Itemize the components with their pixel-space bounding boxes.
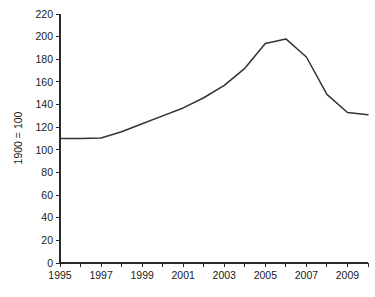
y-tick-label: 100 xyxy=(35,144,53,156)
y-tick-label: 160 xyxy=(35,76,53,88)
x-tick-group: 19951997199920012003200520072009 xyxy=(48,263,368,281)
y-tick-label: 80 xyxy=(41,166,53,178)
y-tick-label: 200 xyxy=(35,30,53,42)
y-tick-group: 020406080100120140160180200220 xyxy=(35,8,60,269)
x-tick-label: 2003 xyxy=(213,269,237,281)
y-tick-label: 180 xyxy=(35,53,53,65)
x-tick-label: 2005 xyxy=(254,269,278,281)
x-tick-label: 1995 xyxy=(48,269,72,281)
y-tick-label: 40 xyxy=(41,211,53,223)
y-tick-label: 120 xyxy=(35,121,53,133)
x-tick-label: 2009 xyxy=(336,269,360,281)
y-tick-label: 140 xyxy=(35,98,53,110)
x-tick-label: 2001 xyxy=(172,269,196,281)
x-tick-label: 1999 xyxy=(130,269,154,281)
chart-container: 020406080100120140160180200220 199519971… xyxy=(0,0,375,297)
series-line xyxy=(60,39,368,139)
y-tick-label: 220 xyxy=(35,8,53,20)
line-chart: 020406080100120140160180200220 199519971… xyxy=(0,0,375,297)
y-tick-label: 20 xyxy=(41,234,53,246)
y-axis-title: 1900 = 100 xyxy=(12,111,24,164)
y-tick-label: 0 xyxy=(47,257,53,269)
series-group xyxy=(60,39,368,139)
x-tick-label: 2007 xyxy=(295,269,319,281)
y-tick-label: 60 xyxy=(41,189,53,201)
x-tick-label: 1997 xyxy=(89,269,113,281)
